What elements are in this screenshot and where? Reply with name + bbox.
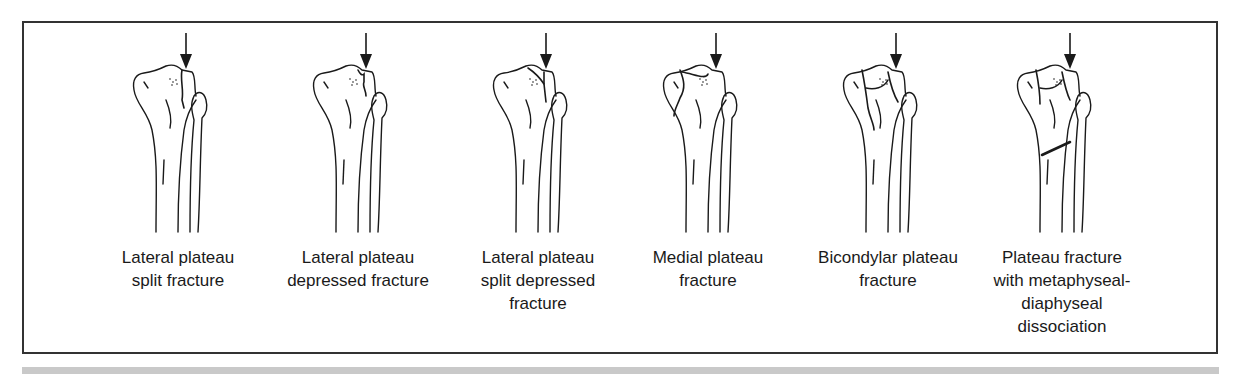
tibia-outline (663, 65, 726, 232)
arrow-head (180, 54, 192, 69)
shading-stroke (144, 82, 148, 88)
fracture-panel-lateral-depressed: Lateral plateaudepressed fracture (268, 0, 448, 374)
arrow-head (1064, 54, 1076, 69)
fracture-illustration (798, 0, 978, 374)
shading-stroke (1047, 160, 1048, 184)
medial-plateau-line (682, 72, 708, 77)
fracture-lines (1036, 70, 1070, 155)
tibia-outline (493, 65, 556, 232)
split-fracture-line (181, 70, 184, 108)
shading-stroke (873, 160, 874, 184)
fracture-panel-bicondylar: Bicondylar plateaufracture (798, 0, 978, 374)
load-arrow-icon (890, 33, 902, 69)
fracture-illustration (618, 0, 798, 374)
depression-fracture-line (358, 70, 366, 96)
shading-stroke (693, 160, 694, 184)
fracture-panel-lateral-split-depressed: Lateral plateausplit depressedfracture (448, 0, 628, 374)
shading-stroke (876, 100, 881, 128)
shading-stroke (523, 160, 524, 184)
shading-stroke (504, 82, 508, 88)
central-fragment-line (866, 80, 888, 89)
shading-stroke (346, 100, 351, 128)
arrow-head (540, 54, 552, 69)
caption-line: depressed fracture (258, 269, 458, 292)
lateral-condyle-fracture-line (1036, 70, 1040, 104)
fracture-caption: Lateral plateausplit fracture (78, 246, 278, 292)
caption-line: diaphyseal (962, 292, 1162, 315)
fibula-outline (550, 93, 567, 232)
caption-line: with metaphyseal- (962, 269, 1162, 292)
shading-stroke (674, 82, 678, 88)
caption-line: split fracture (78, 269, 278, 292)
fracture-lines (358, 70, 366, 96)
fracture-illustration (88, 0, 268, 374)
fracture-caption: Bicondylar plateaufracture (788, 246, 988, 292)
articular-surface-dots (529, 78, 538, 86)
fracture-caption: Lateral plateaudepressed fracture (258, 246, 458, 292)
caption-line: Lateral plateau (78, 246, 278, 269)
fracture-caption: Medial plateaufracture (608, 246, 808, 292)
articular-surface-dots (699, 78, 708, 86)
fracture-panel-metaphyseal-diaphyseal: Plateau fracturewith metaphyseal-diaphys… (972, 0, 1152, 374)
lateral-condyle-fracture-line (862, 70, 874, 130)
tibia-fibula-drawing (133, 65, 206, 232)
tibia-fibula-drawing (843, 65, 916, 232)
fibula-outline (900, 93, 917, 232)
shading-stroke (854, 82, 858, 88)
tibia-outline (313, 65, 376, 232)
shading-stroke (343, 160, 344, 184)
load-arrow-icon (710, 33, 722, 69)
load-arrow-icon (360, 33, 372, 69)
fibula-outline (190, 93, 207, 232)
fracture-illustration (268, 0, 448, 374)
shading-stroke (1050, 100, 1055, 128)
caption-line: Bicondylar plateau (788, 246, 988, 269)
caption-line: Medial plateau (608, 246, 808, 269)
articular-surface-dots (349, 78, 358, 86)
tibia-fibula-drawing (313, 65, 386, 232)
medial-condyle-fracture-line (1062, 72, 1070, 100)
tibia-fibula-drawing (493, 65, 566, 232)
caption-line: dissociation (962, 315, 1162, 338)
shading-stroke (526, 100, 531, 128)
caption-line: fracture (438, 292, 638, 315)
medial-condyle-fracture-line (888, 72, 898, 102)
fracture-panel-lateral-split: Lateral plateausplit fracture (88, 0, 268, 374)
shading-stroke (163, 160, 164, 184)
fracture-panel-medial: Medial plateaufracture (618, 0, 798, 374)
fracture-lines (674, 70, 708, 116)
tibia-outline (133, 65, 196, 232)
shading-stroke (1028, 82, 1032, 88)
fibula-outline (1074, 93, 1091, 232)
tibia-fibula-drawing (663, 65, 736, 232)
central-fragment-line (1040, 80, 1062, 89)
articular-surface-dots (169, 78, 178, 86)
arrow-head (890, 54, 902, 69)
tibia-outline (843, 65, 906, 232)
arrow-head (360, 54, 372, 69)
medial-fracture-line (674, 70, 684, 116)
tibia-outline (1017, 65, 1080, 232)
bottom-divider-band (22, 367, 1219, 374)
caption-line: fracture (608, 269, 808, 292)
arrow-head (710, 54, 722, 69)
fibula-outline (370, 93, 387, 232)
caption-line: Plateau fracture (962, 246, 1162, 269)
load-arrow-icon (540, 33, 552, 69)
fracture-caption: Plateau fracturewith metaphyseal-diaphys… (962, 246, 1162, 338)
caption-line: Lateral plateau (258, 246, 458, 269)
caption-line: fracture (788, 269, 988, 292)
fibula-outline (720, 93, 737, 232)
shading-stroke (696, 100, 701, 128)
fracture-lines (181, 70, 184, 108)
fracture-illustration (448, 0, 628, 374)
fracture-lines (528, 68, 546, 102)
shading-stroke (166, 100, 171, 128)
shading-stroke (324, 82, 328, 88)
load-arrow-icon (1064, 33, 1076, 69)
load-arrow-icon (180, 33, 192, 69)
